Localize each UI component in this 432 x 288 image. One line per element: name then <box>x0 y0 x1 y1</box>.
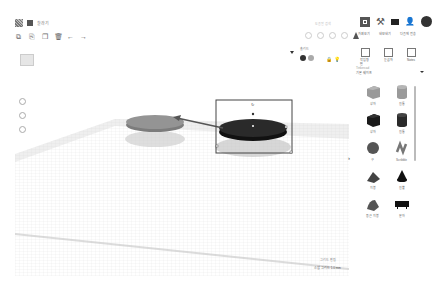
grid-view-icon[interactable] <box>360 17 370 27</box>
rotate-icon[interactable] <box>317 32 324 39</box>
category-value: 기본 쉐이프 <box>356 71 424 75</box>
corner-handle-bottom[interactable] <box>290 151 292 153</box>
snap-grid[interactable]: 스냅 그리드 1.0 mm <box>314 266 341 270</box>
shape-grid: 상자원통상자원통구Scribble지붕원뿔둥근 지붕문자 <box>358 84 416 218</box>
view-tools <box>305 32 359 39</box>
shape-item-sphere[interactable]: 구 <box>358 140 387 162</box>
duplicate-icon[interactable]: ❐ <box>41 33 48 40</box>
grid-settings-button[interactable]: 그리드 편집 <box>320 258 336 262</box>
shape-inspector: 솔리드 🔒 💡 <box>290 47 345 69</box>
shape-label: Scribble <box>396 158 407 162</box>
workplane-icon <box>361 48 370 57</box>
delete-icon[interactable]: 🗑 <box>54 33 61 40</box>
hole-disc-shadow <box>125 131 185 147</box>
shape-label: 문자 <box>399 214 405 218</box>
zoom-out-icon[interactable] <box>19 126 26 133</box>
undo-icon[interactable]: ← <box>67 33 74 40</box>
view-cube[interactable] <box>20 54 34 66</box>
shapes-panel: 작업평면 눈금자 Notes Tinkercad 기본 쉐이프 상자원통상자원통… <box>352 44 429 288</box>
text-icon <box>394 196 410 212</box>
cone-icon <box>394 168 410 184</box>
roof-icon <box>365 168 381 184</box>
shape-category-select[interactable]: Tinkercad 기본 쉐이프 <box>356 66 424 75</box>
hammer-icon[interactable]: ⚒ <box>376 17 385 27</box>
shape-label: 원통 <box>399 130 405 134</box>
workplane[interactable]: ↻ <box>15 44 349 276</box>
align-icon[interactable] <box>329 32 336 39</box>
shape-label: 원통 <box>399 102 405 106</box>
shape-label: 상자 <box>370 130 376 134</box>
corner-handle-right[interactable] <box>285 126 287 128</box>
shape-item-roof[interactable]: 지붕 <box>358 168 387 190</box>
cylinder-icon <box>394 112 410 128</box>
shape-label: 지붕 <box>370 186 376 190</box>
round-roof-icon <box>365 196 381 212</box>
cylinder-hole-icon <box>394 84 410 100</box>
corner-handle-left[interactable] <box>216 145 218 147</box>
workplane-grid: ↻ <box>15 44 349 276</box>
rotate-handle[interactable]: ↻ <box>251 102 254 107</box>
snap-label: 스냅 그리드 <box>314 266 330 270</box>
snap-value[interactable]: 1.0 mm <box>331 266 341 270</box>
add-user-icon[interactable]: 👤 <box>405 17 415 26</box>
hole-button[interactable] <box>308 55 314 61</box>
home-view-icon[interactable] <box>19 98 26 105</box>
collapse-inspector-icon[interactable] <box>290 51 294 54</box>
send-to-button[interactable]: 다음에 전송 <box>400 32 416 36</box>
edit-toolbar: ⧉ ⎘ ❐ 🗑 ← → <box>15 31 87 41</box>
export-button[interactable]: 내보내기 <box>379 32 391 36</box>
center-handle[interactable] <box>252 125 254 127</box>
shape-item-text[interactable]: 문자 <box>387 196 416 218</box>
import-button[interactable]: 가져오기 <box>358 32 370 36</box>
box-icon <box>365 112 381 128</box>
shape-item-round-roof[interactable]: 둥근 지붕 <box>358 196 387 218</box>
ruler-icon <box>384 48 393 57</box>
box-hole-icon <box>365 84 381 100</box>
paste-icon[interactable]: ⎘ <box>28 33 35 40</box>
briefcase-icon[interactable] <box>391 19 399 25</box>
sphere-icon <box>365 140 381 156</box>
notes-label: Notes <box>407 58 415 62</box>
shape-label: 구 <box>371 158 374 162</box>
avatar[interactable] <box>421 16 432 27</box>
shape-item-cylinder[interactable]: 원통 <box>387 112 416 134</box>
redo-icon[interactable]: → <box>80 33 87 40</box>
collapse-panel-icon[interactable]: › <box>348 155 350 161</box>
shape-label: 원뿔 <box>399 186 405 190</box>
shape-item-box-hole[interactable]: 상자 <box>358 84 387 106</box>
workplane-label: 작업평면 <box>360 58 370 66</box>
scribble-icon <box>394 140 410 156</box>
height-handle[interactable] <box>252 113 254 115</box>
ruler-label: 눈금자 <box>384 58 393 62</box>
tinkercad-logo[interactable] <box>15 19 23 27</box>
lock-icon[interactable]: 🔒 <box>326 56 332 62</box>
zoom-in-icon[interactable] <box>19 112 26 119</box>
shape-item-scribble[interactable]: Scribble <box>387 140 416 162</box>
shape-item-cone[interactable]: 원뿔 <box>387 168 416 190</box>
view-nav-controls <box>19 98 26 133</box>
document-title[interactable]: 찰라기 <box>37 20 49 26</box>
help-search[interactable]: 도움말 검색 <box>315 22 331 26</box>
copy-icon[interactable]: ⧉ <box>15 33 22 40</box>
notes-tool[interactable]: Notes <box>406 48 416 66</box>
top-right-controls: ⚒ 👤 <box>360 16 432 27</box>
solid-disc[interactable] <box>219 119 287 137</box>
panel-tools: 작업평면 눈금자 Notes <box>360 48 416 66</box>
mirror-icon[interactable] <box>341 32 348 39</box>
light-icon[interactable] <box>305 32 312 39</box>
visibility-icon[interactable]: 💡 <box>334 56 340 62</box>
shape-label: 상자 <box>370 102 376 106</box>
solid-color-button[interactable] <box>300 55 306 61</box>
solid-label: 솔리드 <box>300 47 309 51</box>
shape-label: 둥근 지붕 <box>366 214 379 218</box>
workplane-tool[interactable]: 작업평면 <box>360 48 370 66</box>
shape-item-cylinder-hole[interactable]: 원통 <box>387 84 416 106</box>
category-source: Tinkercad <box>356 66 424 70</box>
notes-icon <box>407 48 416 57</box>
shape-item-box[interactable]: 상자 <box>358 112 387 134</box>
mode-buttons: 가져오기 내보내기 다음에 전송 <box>358 32 416 36</box>
design-icon <box>27 20 33 26</box>
ruler-tool[interactable]: 눈금자 <box>383 48 393 66</box>
chevron-down-icon <box>420 71 424 73</box>
